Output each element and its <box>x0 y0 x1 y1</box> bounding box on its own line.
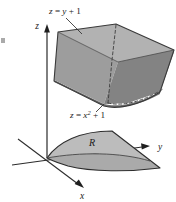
label-top-plus: + 1 <box>66 6 81 16</box>
label-front-plus: + 1 <box>91 110 106 120</box>
surface-solid <box>54 24 174 107</box>
calculus-3d-figure: z = y + 1 z = x2 + 1 z y x R <box>0 0 176 202</box>
label-axis-x: x <box>79 191 85 201</box>
label-front-eq: = <box>74 110 84 120</box>
label-top-eq: = <box>53 6 63 16</box>
x-axis-arrowhead <box>75 180 84 189</box>
figure-container: z = y + 1 z = x2 + 1 z y x R <box>0 0 176 202</box>
label-surface-z-equals-x-squared-plus-1: z = x2 + 1 <box>69 109 105 120</box>
z-axis-arrowhead <box>44 24 50 33</box>
page-edge-artifact <box>1 38 5 43</box>
label-surface-z-equals-y-plus-1: z = y + 1 <box>48 6 81 16</box>
y-axis-arrowhead <box>141 143 150 149</box>
label-region-R: R <box>88 137 95 148</box>
label-axis-y: y <box>157 142 163 152</box>
label-axis-z: z <box>34 21 39 31</box>
region-R-group <box>47 131 160 171</box>
